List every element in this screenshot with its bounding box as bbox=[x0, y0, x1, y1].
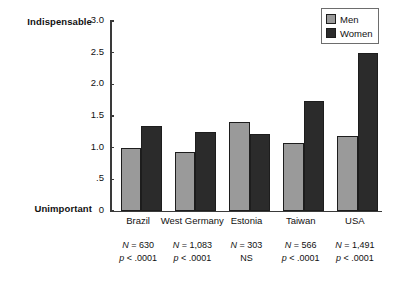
bar-women bbox=[304, 101, 325, 211]
bar-women bbox=[250, 134, 271, 211]
legend: Men Women bbox=[321, 8, 379, 44]
bar-chart-figure: Indispensable Unimportant 0.51.01.52.02.… bbox=[0, 0, 399, 285]
plot-area bbox=[111, 21, 382, 211]
bar-men bbox=[283, 143, 304, 211]
y-axis-top-label: Indispensable bbox=[4, 16, 92, 27]
legend-item-women: Women bbox=[326, 26, 373, 40]
bar-women bbox=[195, 132, 216, 211]
legend-label-men: Men bbox=[340, 14, 358, 25]
bar-women bbox=[358, 53, 379, 211]
bar-group bbox=[229, 21, 270, 211]
bar-men bbox=[121, 148, 142, 211]
annotation-n: N = 1,491 bbox=[314, 239, 396, 252]
bar-group bbox=[283, 21, 324, 211]
category-annotation: N = 1,491p < .0001 bbox=[314, 239, 396, 264]
legend-label-women: Women bbox=[340, 28, 373, 39]
bar-group bbox=[175, 21, 216, 211]
bar-group bbox=[121, 21, 162, 211]
category-label: USA bbox=[316, 215, 394, 226]
annotation-p: p < .0001 bbox=[314, 252, 396, 265]
legend-swatch-men bbox=[326, 14, 336, 24]
bar-women bbox=[141, 126, 162, 212]
bar-men bbox=[229, 122, 250, 211]
y-axis-bottom-label: Unimportant bbox=[4, 203, 92, 214]
legend-item-men: Men bbox=[326, 12, 373, 26]
bar-men bbox=[337, 136, 358, 211]
bar-group bbox=[337, 21, 378, 211]
bar-men bbox=[175, 152, 196, 211]
legend-swatch-women bbox=[326, 28, 336, 38]
